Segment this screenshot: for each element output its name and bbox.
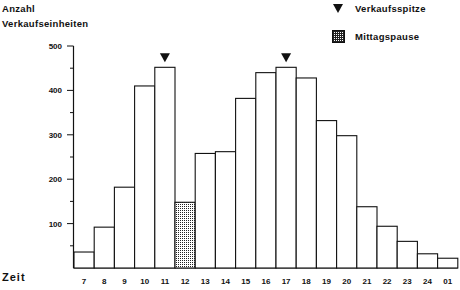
x-axis-title: Zeit: [2, 271, 26, 283]
bar-18: [296, 78, 316, 268]
x-tick-label: 15: [241, 277, 250, 286]
x-tick-label: 20: [342, 277, 351, 286]
x-tick-label: 17: [282, 277, 291, 286]
bar-10: [135, 86, 155, 268]
y-tick-label: 300: [49, 131, 63, 140]
x-tick-label: 21: [362, 277, 371, 286]
x-tick-label: 01: [443, 277, 452, 286]
bar-12: [175, 202, 195, 268]
x-tick-label: 22: [383, 277, 392, 286]
x-tick-label: 9: [122, 277, 127, 286]
peak-marker-icon: [281, 53, 291, 62]
bar-01: [438, 258, 458, 268]
x-tick-label: 10: [140, 277, 149, 286]
bar-11: [155, 67, 175, 268]
x-tick-label: 12: [181, 277, 190, 286]
x-tick-label: 7: [82, 277, 87, 286]
bar-8: [94, 227, 114, 268]
bar-9: [114, 187, 134, 268]
bar-22: [377, 226, 397, 268]
y-tick-label: 400: [49, 86, 63, 95]
y-tick-label: 100: [49, 220, 63, 229]
x-tick-label: 11: [161, 277, 170, 286]
bar-20: [337, 136, 357, 268]
bar-7: [74, 252, 94, 268]
bars: [74, 53, 458, 268]
bar-23: [397, 241, 417, 268]
x-tick-label: 13: [201, 277, 210, 286]
bar-15: [236, 98, 256, 268]
bar-13: [195, 153, 215, 268]
peak-marker-icon: [160, 53, 170, 62]
bar-17: [276, 67, 296, 268]
y-tick-label: 500: [49, 42, 63, 51]
x-tick-label: 14: [221, 277, 230, 286]
x-tick-label: 24: [423, 277, 432, 286]
x-tick-label: 16: [261, 277, 270, 286]
bar-21: [357, 207, 377, 268]
x-tick-label: 23: [403, 277, 412, 286]
x-tick-label: 8: [102, 277, 107, 286]
bar-19: [316, 121, 336, 268]
x-tick-label: 18: [302, 277, 311, 286]
bar-16: [256, 73, 276, 268]
y-tick-label: 200: [49, 175, 63, 184]
bar-chart: 1002003004005007891011121314151617181920…: [0, 0, 460, 290]
bar-14: [215, 152, 235, 268]
bar-24: [417, 254, 437, 268]
x-tick-label: 19: [322, 277, 331, 286]
